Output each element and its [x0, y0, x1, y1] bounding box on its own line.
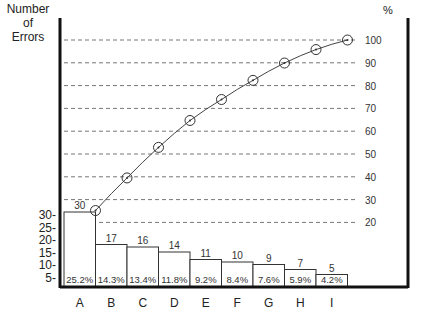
bar-percent-label: 8.4%	[226, 274, 248, 285]
y2-tick-label: 90	[365, 58, 377, 69]
cumulative-point-dot	[315, 49, 317, 51]
y2-tick-label: 100	[365, 35, 382, 46]
bar-value-label: 9	[266, 253, 272, 264]
cumulative-point-dot	[158, 146, 160, 148]
bar-percent-label: 14.3%	[98, 274, 125, 285]
y2-tick-label: 70	[365, 103, 377, 114]
cumulative-point-dot	[221, 99, 223, 101]
bar-value-label: 11	[201, 248, 212, 259]
bar-value-label: 5	[329, 263, 335, 274]
bar-percent-label: 11.8%	[161, 274, 188, 285]
cumulative-point-dot	[126, 177, 128, 179]
x-tick-label: E	[202, 296, 210, 310]
bar-percent-label: 7.6%	[258, 274, 280, 285]
x-tick-label: A	[76, 296, 84, 310]
bar-percent-label: 4.2%	[321, 274, 343, 285]
x-tick-label: H	[296, 296, 305, 310]
y2-tick-label: 20	[365, 217, 377, 228]
x-tick-label: I	[330, 296, 333, 310]
x-tick-label: G	[264, 296, 273, 310]
bar-value-label: 14	[169, 240, 181, 251]
bar-value-label: 7	[297, 258, 303, 269]
y2-tick-label: 30	[365, 195, 377, 206]
cumulative-point-dot	[189, 119, 191, 121]
x-tick-label: B	[107, 296, 115, 310]
bar-value-label: 16	[137, 235, 149, 246]
cumulative-point-dot	[284, 62, 286, 64]
y2-tick-label: 40	[365, 172, 377, 183]
bar-value-label: 30	[74, 200, 86, 211]
bar-percent-label: 13.4%	[129, 274, 156, 285]
x-tick-label: D	[170, 296, 179, 310]
bar-percent-label: 5.9%	[289, 274, 311, 285]
y-tick-label: 5-	[45, 271, 56, 285]
cumulative-point-dot	[252, 79, 254, 81]
cumulative-point-dot	[95, 210, 97, 212]
x-tick-label: C	[138, 296, 147, 310]
cumulative-point-dot	[347, 39, 349, 41]
pareto-chart: 10090807060504030203025.2%A1714.3%B1613.…	[0, 0, 427, 321]
bar-value-label: 17	[106, 233, 118, 244]
bar-value-label: 10	[232, 250, 244, 261]
cumulative-line	[96, 40, 348, 211]
y2-tick-label: 80	[365, 81, 377, 92]
bar-percent-label: 9.2%	[195, 274, 217, 285]
y2-tick-label: 50	[365, 149, 377, 160]
bar-percent-label: 25.2%	[66, 274, 93, 285]
x-tick-label: F	[234, 296, 241, 310]
y2-tick-label: 60	[365, 126, 377, 137]
